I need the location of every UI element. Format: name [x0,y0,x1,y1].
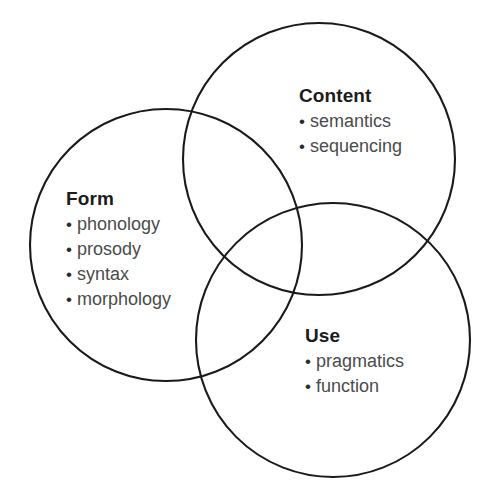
item-label: pragmatics [316,349,404,374]
heading-form: Form [66,189,171,209]
item-label: sequencing [310,134,402,159]
item-label: morphology [77,287,171,312]
item-label: semantics [310,109,391,134]
heading-use: Use [305,326,404,346]
circle-content [183,23,455,295]
bullet-icon: • [305,374,316,399]
bullet-icon: • [299,109,310,134]
item-label: syntax [77,262,129,287]
list-item: • pragmatics [305,349,404,374]
list-item: • semantics [299,109,402,134]
label-group-use: Use • pragmatics • function [305,326,404,399]
item-label: prosody [77,237,141,262]
bullet-icon: • [305,349,316,374]
list-item: • prosody [66,237,171,262]
item-list-form: • phonology • prosody • syntax • morphol… [66,212,171,312]
bullet-icon: • [66,287,77,312]
bullet-icon: • [66,237,77,262]
list-item: • phonology [66,212,171,237]
bullet-icon: • [66,212,77,237]
label-group-form: Form • phonology • prosody • syntax • mo… [66,189,171,312]
venn-diagram: Form • phonology • prosody • syntax • mo… [0,0,496,500]
item-list-use: • pragmatics • function [305,349,404,399]
bullet-icon: • [299,134,310,159]
label-group-content: Content • semantics • sequencing [299,86,402,159]
list-item: • sequencing [299,134,402,159]
item-label: function [316,374,379,399]
list-item: • morphology [66,287,171,312]
item-list-content: • semantics • sequencing [299,109,402,159]
list-item: • function [305,374,404,399]
bullet-icon: • [66,262,77,287]
item-label: phonology [77,212,160,237]
heading-content: Content [299,86,402,106]
list-item: • syntax [66,262,171,287]
